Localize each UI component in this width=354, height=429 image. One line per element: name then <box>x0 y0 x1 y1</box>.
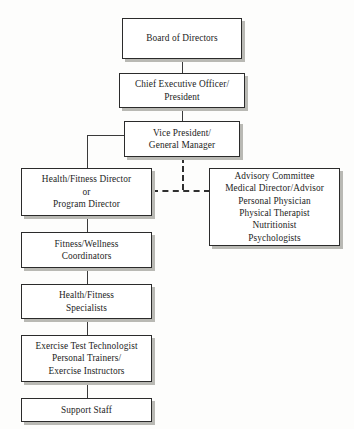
node-fitness-wellness-coordinators[interactable]: Fitness/Wellness Coordinators <box>21 232 152 268</box>
node-technologists-line-1: Exercise Test Technologist <box>35 340 137 352</box>
dashed-connector-vp-vertical <box>182 157 184 190</box>
node-health-fitness-director[interactable]: Health/Fitness Director or Program Direc… <box>21 168 152 216</box>
connector-technologists-to-support <box>87 382 88 398</box>
node-ceo-line-2: President <box>164 91 200 103</box>
node-specialists-line-2: Specialists <box>66 302 107 314</box>
connector-specialists-to-technologists <box>87 319 88 335</box>
connector-vp-elbow-vertical <box>87 135 88 168</box>
node-board-of-directors[interactable]: Board of Directors <box>122 18 242 59</box>
node-vice-president[interactable]: Vice President/ General Manager <box>124 121 240 157</box>
node-health-fitness-specialists[interactable]: Health/Fitness Specialists <box>21 284 152 319</box>
connector-board-to-ceo <box>182 59 183 73</box>
node-vp-line-1: Vice President/ <box>153 127 211 139</box>
node-advisory-line-2: Medical Director/Advisor <box>225 182 324 194</box>
node-advisory-line-1: Advisory Committee <box>234 170 314 182</box>
org-chart-canvas: Board of Directors Chief Executive Offic… <box>0 0 354 429</box>
dashed-connector-director-to-advisory <box>152 190 210 192</box>
node-advisory-line-6: Psychologists <box>248 232 300 244</box>
node-board-line-1: Board of Directors <box>146 32 218 44</box>
node-advisory-committee[interactable]: Advisory Committee Medical Director/Advi… <box>209 168 340 246</box>
connector-coordinators-to-specialists <box>87 268 88 284</box>
node-support-staff[interactable]: Support Staff <box>21 398 152 422</box>
node-director-line-3: Program Director <box>53 198 120 210</box>
node-exercise-test-technologist[interactable]: Exercise Test Technologist Personal Trai… <box>21 335 152 382</box>
connector-ceo-to-vp <box>182 108 183 121</box>
connector-vp-elbow-horizontal <box>87 135 125 136</box>
node-coordinators-line-1: Fitness/Wellness <box>55 238 119 250</box>
connector-director-to-coordinators <box>87 216 88 232</box>
node-vp-line-2: General Manager <box>149 139 215 151</box>
node-advisory-line-3: Personal Physician <box>238 195 310 207</box>
node-technologists-line-3: Exercise Instructors <box>48 365 124 377</box>
node-advisory-line-5: Nutritionist <box>252 219 296 231</box>
node-ceo-line-1: Chief Executive Officer/ <box>135 78 229 90</box>
node-specialists-line-1: Health/Fitness <box>59 289 114 301</box>
node-support-line-1: Support Staff <box>61 404 112 416</box>
node-advisory-line-4: Physical Therapist <box>239 207 310 219</box>
node-technologists-line-2: Personal Trainers/ <box>52 352 121 364</box>
node-director-line-1: Health/Fitness Director <box>42 173 131 185</box>
node-coordinators-line-2: Coordinators <box>62 250 112 262</box>
node-chief-executive-officer[interactable]: Chief Executive Officer/ President <box>119 73 245 108</box>
node-director-line-2: or <box>83 186 91 198</box>
